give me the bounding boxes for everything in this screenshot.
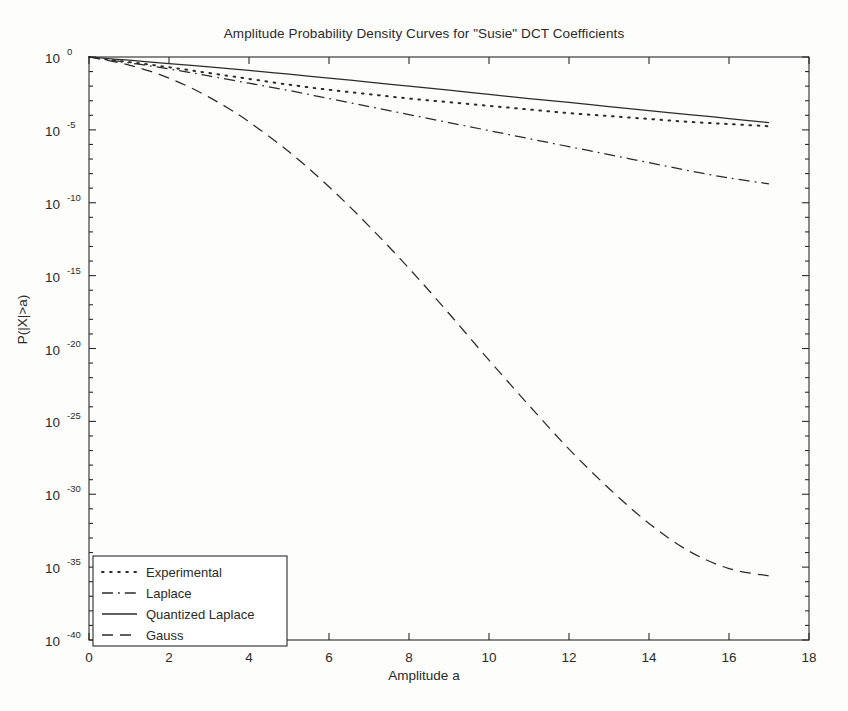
x-tick-label: 10 [481, 650, 496, 665]
x-axis-tick-labels: 024681012141618 [85, 650, 816, 665]
x-tick-label: 14 [641, 650, 657, 665]
y-tick-label-exponent: -30 [67, 483, 81, 494]
curve-quantized-laplace [89, 57, 769, 123]
y-tick-label-mantissa: 10 [45, 197, 60, 212]
y-tick-label-exponent: -5 [67, 119, 75, 130]
x-tick-label: 18 [801, 650, 816, 665]
y-tick-label-mantissa: 10 [45, 415, 60, 430]
curve-laplace [89, 57, 769, 184]
legend-label: Experimental [146, 565, 222, 580]
x-tick-label: 0 [85, 650, 93, 665]
y-tick-label-exponent: -10 [67, 192, 81, 203]
y-tick-label-exponent: -15 [67, 265, 81, 276]
legend-label: Gauss [146, 628, 184, 643]
y-tick-label-mantissa: 10 [45, 634, 60, 649]
y-axis-ticks [89, 57, 809, 640]
x-tick-label: 2 [165, 650, 173, 665]
y-tick-label-exponent: -25 [67, 410, 81, 421]
x-tick-label: 4 [245, 650, 253, 665]
y-tick-label-mantissa: 10 [45, 488, 60, 503]
y-axis-tick-labels: 10010-510-1010-1510-2010-2510-3010-3510-… [45, 46, 81, 649]
legend-label: Laplace [146, 586, 192, 601]
data-curves [89, 57, 769, 576]
y-tick-label-mantissa: 10 [45, 270, 60, 285]
curve-experimental [89, 57, 769, 126]
plot-svg: 10010-510-1010-1510-2010-2510-3010-3510-… [0, 0, 848, 711]
figure-canvas: Amplitude Probability Density Curves for… [0, 0, 848, 711]
legend-label: Quantized Laplace [146, 607, 254, 622]
y-tick-label-mantissa: 10 [45, 561, 60, 576]
axis-frame [89, 57, 809, 640]
curve-gauss [89, 57, 769, 576]
y-tick-label-mantissa: 10 [45, 124, 60, 139]
y-tick-label-mantissa: 10 [45, 343, 60, 358]
legend[interactable]: ExperimentalLaplaceQuantized LaplaceGaus… [93, 556, 287, 646]
x-tick-label: 12 [561, 650, 576, 665]
x-tick-label: 16 [721, 650, 736, 665]
x-tick-label: 8 [405, 650, 413, 665]
x-axis-ticks [89, 57, 809, 640]
y-tick-label-exponent: -40 [67, 629, 81, 640]
y-tick-label-exponent: -20 [67, 338, 81, 349]
y-tick-label-mantissa: 10 [45, 51, 60, 66]
x-tick-label: 6 [325, 650, 333, 665]
y-tick-label-exponent: 0 [67, 46, 72, 57]
y-tick-label-exponent: -35 [67, 556, 81, 567]
